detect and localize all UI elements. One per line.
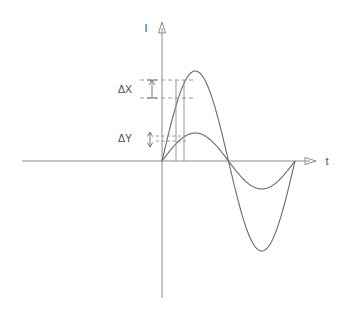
axes-group bbox=[22, 22, 316, 298]
x-axis-label: t bbox=[325, 155, 328, 167]
sine-wave-plot: I t ΔX ΔY bbox=[0, 0, 341, 311]
delta-y-label: ΔY bbox=[118, 132, 132, 144]
delta-x-label: ΔX bbox=[118, 83, 132, 95]
waveform-figure: I t ΔX ΔY bbox=[0, 0, 341, 311]
y-axis-label: I bbox=[144, 22, 147, 34]
